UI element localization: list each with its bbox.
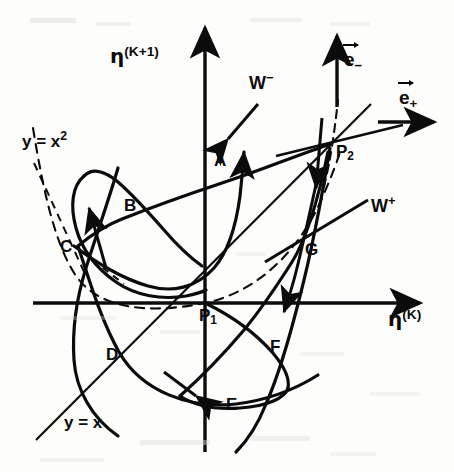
axis-group [33,28,420,452]
scan-artifact [250,436,310,441]
scan-artifact [140,440,210,445]
diagonal-equation-text: y = x [64,413,102,432]
eigenvector-label-e-minus: e− [344,50,362,69]
x-axis-superscript: (K) [402,307,421,322]
scan-artifact [60,316,116,320]
scan-artifact [370,392,420,396]
e-plus-letter: e [399,87,410,108]
intersection-label-g: G [305,241,318,258]
scan-artifact [96,22,130,26]
scan-artifact [330,22,370,26]
curve-label-parabola: y = x2 [22,133,67,150]
w-minus-superscript: − [266,70,274,85]
e-plus-subscript: + [410,96,418,111]
e-minus-overarrow-group: e [344,50,355,69]
e-plus-overarrow-group: e [399,88,410,107]
p1-letter: P [199,306,210,325]
parabola-equation-text: y = x [22,132,60,151]
w-plus-superscript: + [388,193,396,208]
e-minus-subscript: − [355,58,363,73]
w-plus-letter: W [371,196,388,216]
e-minus-letter: e [344,49,355,70]
w-minus-direction-arrow [228,104,258,139]
scan-artifact [236,252,266,256]
intersection-label-a: A [214,152,226,169]
fixed-point-label-p1: P1 [199,307,217,324]
p2-letter: P [336,142,347,161]
intersection-label-e: E [226,396,237,413]
fixed-point-label-p2: P2 [336,143,354,160]
intersection-label-c: C [60,238,72,255]
vector-arrow-icon [343,44,358,46]
intersection-label-d: D [106,346,118,363]
vector-arrow-icon [398,82,413,84]
x-axis-label: η(K) [388,309,421,329]
scan-artifact [300,352,344,356]
curve-label-diagonal: y = x [64,414,102,431]
scan-artifact [40,458,104,462]
x-axis-eta: η [388,307,402,331]
y-axis-superscript: (K+1) [124,44,159,59]
scan-artifact [250,18,302,22]
parabola-exponent: 2 [60,129,67,143]
w-minus-letter: W [249,73,266,93]
p2-subscript: 2 [347,149,354,163]
scan-artifact [330,452,376,456]
manifold-label-w-minus: W− [249,74,274,92]
manifold-label-w-plus: W+ [371,197,396,215]
eigenvector-label-e-plus: e+ [399,88,417,107]
scan-artifact [30,18,76,23]
intersection-label-b: B [124,197,136,214]
y-axis-eta: η [110,44,124,68]
p1-subscript: 1 [210,313,217,327]
y-axis-label: η(K+1) [110,46,159,66]
figure-canvas: η(K+1) η(K) P1 P2 W− W+ e− e+ y = x2 y =… [0,0,454,472]
intersection-label-f: F [270,338,280,355]
scan-artifact [160,330,200,334]
